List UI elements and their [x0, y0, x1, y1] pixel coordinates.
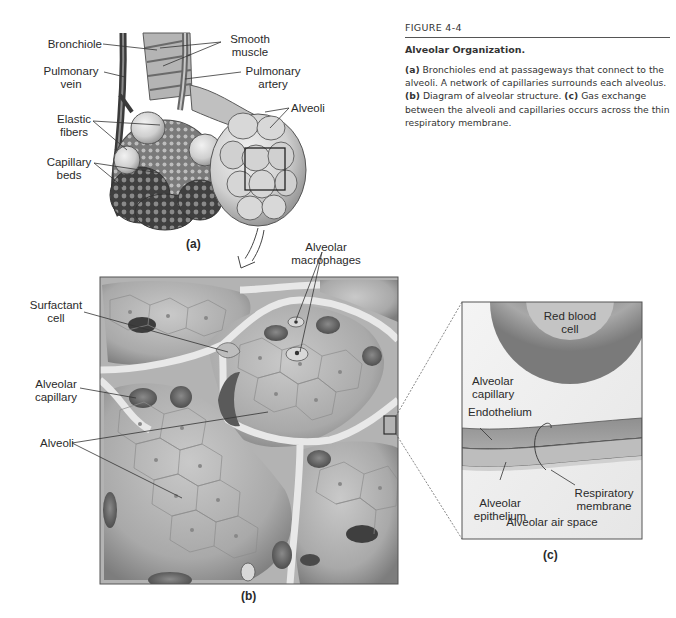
panel-b-letter: (b): [241, 589, 256, 603]
label-elastic-fibers: Elasticfibers: [48, 113, 100, 139]
label-alveolar-capillary-c: Alveolarcapillary: [472, 375, 514, 401]
caption-tag-b: (b): [405, 90, 420, 101]
figure-description: (a) Bronchioles end at passageways that …: [405, 63, 670, 129]
label-bronchiole: Bronchiole: [18, 38, 102, 51]
caption-text-b: Diagram of alveolar structure.: [420, 90, 564, 101]
label-respiratory-membrane: Respiratorymembrane: [572, 487, 636, 513]
label-smooth-muscle: Smoothmuscle: [222, 33, 278, 59]
caption-tag-c: (c): [564, 90, 578, 101]
caption-tag-a: (a): [405, 64, 420, 75]
label-surfactant-cell: Surfactantcell: [24, 299, 88, 325]
label-alveoli-a: Alveoli: [291, 102, 325, 115]
figure-caption: FIGURE 4-4 Alveolar Organization. (a) Br…: [405, 22, 670, 129]
label-alveolar-capillary-b: Alveolarcapillary: [28, 378, 84, 404]
panel-c-letter: (c): [543, 548, 558, 562]
label-pulmonary-vein: Pulmonaryvein: [36, 65, 106, 91]
label-alveolar-air-space: Alveolar air space: [462, 516, 642, 529]
panel-b-illustration: [100, 277, 398, 588]
label-alveoli-b: Alveoli: [40, 437, 74, 450]
figure-number: FIGURE 4-4: [405, 22, 670, 38]
figure-title: Alveolar Organization.: [405, 44, 670, 55]
zoom-connector: [396, 302, 462, 539]
label-capillary-beds: Capillarybeds: [40, 156, 98, 182]
caption-text-a: Bronchioles end at passageways that conn…: [405, 64, 666, 88]
label-red-blood-cell: Red bloodcell: [540, 310, 600, 336]
label-endothelium: Endothelium: [468, 406, 532, 419]
panel-a-letter: (a): [186, 237, 201, 251]
label-alveolar-macrophages: Alveolarmacrophages: [286, 241, 366, 267]
label-pulmonary-artery: Pulmonaryartery: [240, 65, 306, 91]
